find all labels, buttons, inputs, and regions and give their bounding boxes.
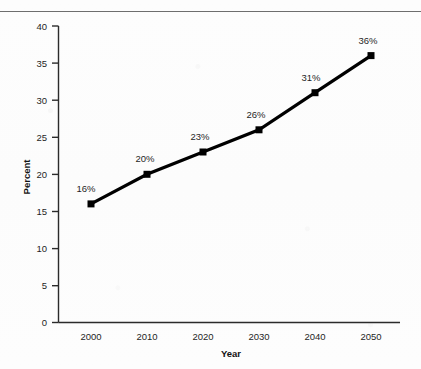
y-tick-label-20: 20 (36, 169, 47, 180)
line-chart: 40 35 30 25 20 15 10 5 0 2000 2010 2020 … (0, 0, 421, 369)
x-tick-label-2000: 2000 (80, 331, 101, 342)
data-point-2010 (144, 171, 151, 178)
y-tick-label-35: 35 (36, 58, 47, 69)
x-axis-title: Year (221, 348, 241, 359)
y-tick-label-10: 10 (36, 243, 47, 254)
y-tick-label-15: 15 (36, 206, 47, 217)
y-tick-label-25: 25 (36, 132, 47, 143)
y-tick-label-5: 5 (42, 280, 47, 291)
data-label-2020: 23% (190, 131, 210, 142)
data-label-2000: 16% (76, 183, 96, 194)
data-point-2000 (88, 200, 95, 207)
data-label-2010: 20% (135, 153, 155, 164)
chart-page: 40 35 30 25 20 15 10 5 0 2000 2010 2020 … (0, 0, 421, 369)
x-tick-label-2010: 2010 (136, 331, 157, 342)
data-label-2030: 26% (246, 109, 266, 120)
x-tick-label-2040: 2040 (304, 331, 325, 342)
data-label-2040: 31% (301, 72, 321, 83)
data-series-line (91, 56, 371, 204)
y-axis-ticks (52, 26, 59, 323)
data-label-2050: 36% (358, 35, 378, 46)
y-axis-tick-labels: 40 35 30 25 20 15 10 5 0 (36, 21, 47, 329)
data-point-labels: 16% 20% 23% 26% 31% 36% (76, 35, 378, 194)
data-point-2040 (312, 89, 319, 96)
data-point-2030 (256, 126, 263, 133)
y-tick-label-40: 40 (36, 21, 47, 32)
data-point-2020 (200, 149, 207, 156)
y-tick-label-0: 0 (42, 317, 47, 328)
x-axis-tick-labels: 2000 2010 2020 2030 2040 2050 (80, 331, 381, 342)
data-point-2050 (368, 52, 375, 59)
y-axis-title: Percent (21, 159, 32, 195)
y-tick-label-30: 30 (36, 95, 47, 106)
x-tick-label-2020: 2020 (192, 331, 213, 342)
x-tick-label-2030: 2030 (248, 331, 269, 342)
x-tick-label-2050: 2050 (360, 331, 381, 342)
